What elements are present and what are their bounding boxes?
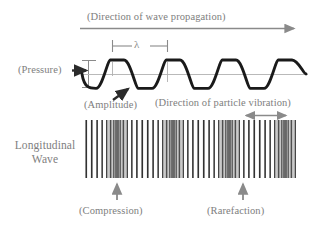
diagram-artwork (0, 0, 318, 231)
particle-density-stripe-band (86, 120, 295, 178)
wavelength-bracket-icon (113, 40, 168, 52)
diagonal-up-right-arrow-icon (113, 89, 128, 100)
longitudinal-wave-diagram: (Direction of wave propagation) λ (Press… (0, 0, 318, 231)
